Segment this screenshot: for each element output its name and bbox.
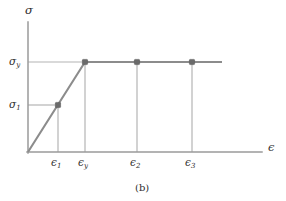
y-tick-sigma-1-sub: 1 [16, 104, 20, 112]
x-tick-epsilon-y-base: ϵ [78, 156, 84, 168]
x-tick-epsilon-2-base: ϵ [130, 156, 136, 168]
x-tick-epsilon-1-base: ϵ [51, 156, 57, 168]
x-tick-label-epsilon-2: ϵ2 [130, 157, 141, 170]
x-tick-epsilon-3-sub: 3 [191, 162, 195, 170]
y-tick-sigma-y-sub: y [16, 61, 20, 69]
y-axis-title: σ [25, 5, 33, 17]
x-axis-title: ϵ [268, 142, 274, 154]
x-tick-epsilon-3-base: ϵ [185, 156, 191, 168]
data-point-epsilon-2 [134, 59, 139, 64]
x-tick-label-epsilon-1: ϵ1 [51, 157, 62, 170]
y-tick-label-sigma-y: σy [9, 56, 20, 69]
stress-strain-plot [0, 0, 286, 201]
data-point-epsilon-1 [55, 102, 60, 107]
figure-caption: (b) [135, 182, 149, 193]
stress-strain-figure: σ ϵ σy σ1 ϵ1 ϵy ϵ2 ϵ3 (b) [0, 0, 286, 201]
x-tick-epsilon-1-sub: 1 [57, 162, 61, 170]
data-point-epsilon-3 [189, 59, 194, 64]
data-point-epsilon-y [82, 59, 87, 64]
y-tick-label-sigma-1: σ1 [9, 99, 21, 112]
x-tick-label-epsilon-3: ϵ3 [185, 157, 196, 170]
x-tick-epsilon-y-sub: y [84, 162, 88, 170]
x-tick-label-epsilon-y: ϵy [78, 157, 88, 170]
x-tick-epsilon-2-sub: 2 [136, 162, 140, 170]
